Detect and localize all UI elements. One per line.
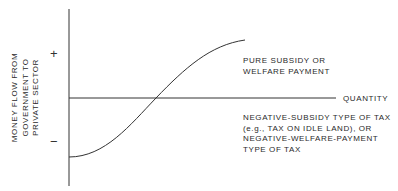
diagram-canvas	[0, 0, 398, 191]
positive-sign: +	[50, 46, 58, 61]
y-axis-label: MONEY FLOW FROM GOVERNMENT TO PRIVATE SE…	[10, 35, 42, 160]
negative-sign: −	[50, 134, 58, 149]
x-axis-label: QUANTITY	[343, 94, 388, 105]
lower-region-label: NEGATIVE-SUBSIDY TYPE OF TAX (e.g., TAX …	[243, 113, 391, 155]
upper-region-label: PURE SUBSIDY OR WELFARE PAYMENT	[243, 56, 330, 77]
